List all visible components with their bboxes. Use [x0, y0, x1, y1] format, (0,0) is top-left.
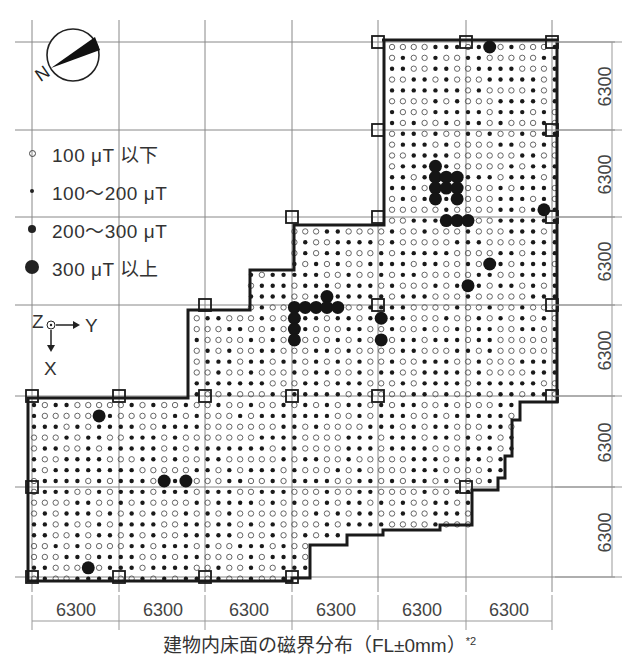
- figure-caption: 建物内床面の磁界分布（FL±0mm）*2: [0, 630, 639, 657]
- medium-dot-icon: [22, 225, 42, 233]
- legend-label: 300 μT 以上: [52, 254, 159, 281]
- legend-item-over-300: 300 μT 以上: [22, 248, 167, 286]
- dim-vertical-3: 6300: [595, 227, 616, 297]
- dim-vertical-5: 6300: [595, 408, 616, 478]
- dim-vertical-4: 6300: [595, 316, 616, 386]
- caption-text: 建物内床面の磁界分布（FL±0mm）: [163, 635, 466, 656]
- small-dot-icon: [22, 189, 42, 193]
- dim-horizontal-2: 6300: [120, 600, 206, 621]
- field-measurement-dots: [31, 41, 557, 582]
- legend-label: 100 μT 以下: [52, 140, 159, 167]
- dim-vertical-1: 6300: [595, 52, 616, 122]
- legend-label: 100〜200 μT: [52, 178, 167, 205]
- axis-z-label: Z: [32, 311, 44, 333]
- caption-note: *2: [466, 635, 476, 647]
- legend-label: 200〜300 μT: [52, 216, 167, 243]
- dim-horizontal-1: 6300: [33, 600, 119, 621]
- large-dot-icon: [22, 260, 42, 274]
- axis-indicator-icon: [47, 321, 80, 352]
- dim-vertical-6: 6300: [595, 498, 616, 568]
- axis-x-label: X: [44, 358, 57, 380]
- dim-horizontal-4: 6300: [293, 600, 379, 621]
- legend: 100 μT 以下 100〜200 μT 200〜300 μT 300 μT 以…: [22, 134, 167, 286]
- dim-horizontal-5: 6300: [379, 600, 465, 621]
- dim-horizontal-3: 6300: [206, 600, 292, 621]
- legend-item-200-300: 200〜300 μT: [22, 210, 167, 248]
- north-arrow-compass-icon: N: [31, 29, 100, 86]
- open-circle-icon: [22, 150, 42, 157]
- dim-horizontal-6: 6300: [466, 600, 552, 621]
- legend-item-under-100: 100 μT 以下: [22, 134, 167, 172]
- axis-y-label: Y: [85, 315, 98, 337]
- legend-item-100-200: 100〜200 μT: [22, 172, 167, 210]
- dim-vertical-2: 6300: [595, 140, 616, 210]
